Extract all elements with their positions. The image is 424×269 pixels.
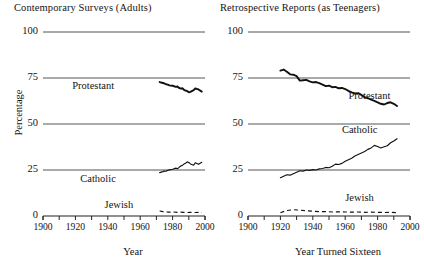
series-line-catholic-panel0 bbox=[160, 162, 202, 173]
y-tick-label-undefined-0: 0 bbox=[12, 209, 38, 220]
series-label-jewish-panel0: Jewish bbox=[105, 199, 134, 210]
series-label-protestant-panel1: Protestant bbox=[348, 90, 390, 101]
x-tick-label-1-1980: 1980 bbox=[361, 221, 395, 232]
x-tick-label-1-1920: 1920 bbox=[263, 221, 297, 232]
y-tick-label-undefined-0: 0 bbox=[217, 209, 243, 220]
y-tick-label-undefined-100: 100 bbox=[12, 25, 38, 36]
x-tick-label-1-2000: 2000 bbox=[393, 221, 424, 232]
x-tick-label-0-1960: 1960 bbox=[123, 221, 157, 232]
series-line-protestant-panel0 bbox=[160, 82, 202, 92]
series-line-catholic-panel1 bbox=[280, 139, 397, 178]
series-label-catholic-panel1: Catholic bbox=[342, 124, 378, 135]
series-label-jewish-panel1: Jewish bbox=[345, 192, 374, 203]
x-tick-label-1-1960: 1960 bbox=[328, 221, 362, 232]
y-tick-label-undefined-75: 75 bbox=[217, 71, 243, 82]
x-tick-label-0-1920: 1920 bbox=[58, 221, 92, 232]
x-tick-label-1-1940: 1940 bbox=[296, 221, 330, 232]
y-tick-label-undefined-100: 100 bbox=[217, 25, 243, 36]
y-tick-label-undefined-50: 50 bbox=[12, 117, 38, 128]
x-tick-label-0-1900: 1900 bbox=[26, 221, 60, 232]
series-line-jewish-panel0 bbox=[160, 211, 202, 212]
series-label-catholic-panel0: Catholic bbox=[80, 173, 116, 184]
y-tick-label-undefined-75: 75 bbox=[12, 71, 38, 82]
x-tick-label-0-2000: 2000 bbox=[188, 221, 222, 232]
series-label-protestant-panel0: Protestant bbox=[72, 80, 114, 91]
x-tick-label-1-1900: 1900 bbox=[231, 221, 265, 232]
x-tick-label-0-1980: 1980 bbox=[156, 221, 190, 232]
y-tick-label-undefined-25: 25 bbox=[217, 163, 243, 174]
y-tick-label-undefined-25: 25 bbox=[12, 163, 38, 174]
y-tick-label-undefined-50: 50 bbox=[217, 117, 243, 128]
x-tick-label-0-1940: 1940 bbox=[91, 221, 125, 232]
series-line-jewish-panel1 bbox=[280, 210, 397, 213]
